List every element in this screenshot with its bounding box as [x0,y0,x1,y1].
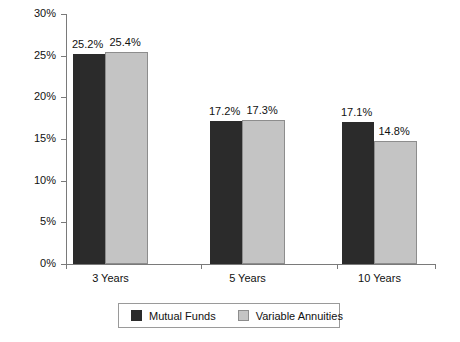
y-axis-tick [61,14,67,15]
legend-label: Mutual Funds [149,310,216,322]
y-axis-tick [61,56,67,57]
x-axis-category-label: 3 Years [71,272,151,284]
bar [374,141,417,264]
y-axis-tick-label: 0% [0,258,56,269]
chart-legend: Mutual Funds Variable Annuities [118,303,340,328]
legend-swatch-icon [131,310,142,321]
bar-value-label: 17.3% [247,105,278,116]
legend-item-variable-annuities: Variable Annuities [238,310,343,322]
bar-value-label: 25.4% [110,37,141,48]
bar [242,120,285,264]
x-axis-tick [201,264,202,269]
x-axis-category-label: 5 Years [208,272,288,284]
legend-label: Variable Annuities [256,310,343,322]
bar-value-label: 25.2% [72,39,103,50]
bar-value-label: 17.1% [341,107,372,118]
y-axis-tick-label: 15% [0,133,56,144]
x-axis-tick [337,264,338,269]
bar-value-label: 14.8% [379,126,410,137]
x-axis-category-label: 10 Years [340,272,420,284]
bar [105,52,148,264]
bar-value-label: 17.2% [209,106,240,117]
y-axis-tick-label: 30% [0,8,56,19]
y-axis-tick [61,97,67,98]
legend-swatch-icon [238,310,249,321]
y-axis-tick-label: 5% [0,216,56,227]
y-axis-tick [61,181,67,182]
bar [73,54,105,264]
y-axis-tick [61,139,67,140]
bar [210,121,242,264]
x-axis-line [66,264,435,265]
y-axis-tick-label: 20% [0,91,56,102]
x-axis-tick [435,264,436,269]
y-axis-tick [61,222,67,223]
legend-item-mutual-funds: Mutual Funds [131,310,216,322]
y-axis-tick-label: 10% [0,175,56,186]
y-axis-tick-label: 25% [0,50,56,61]
bar [342,122,374,265]
bar-chart: 0%5%10%15%20%25%30% 25.2%25.4%17.2%17.3%… [0,0,460,342]
x-axis-tick [66,264,67,269]
